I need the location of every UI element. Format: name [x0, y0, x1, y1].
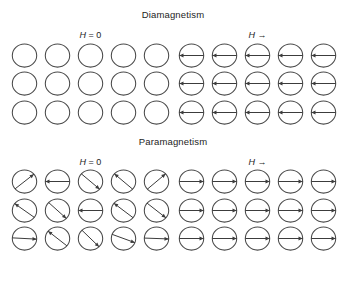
dipole-cell	[308, 42, 339, 69]
dipole-cell	[141, 99, 172, 126]
field-condition-label: H →	[248, 30, 266, 41]
dipole-cell	[308, 197, 339, 224]
dipole-cell	[75, 99, 106, 126]
field-value: = 0	[86, 30, 101, 40]
moment-arrowhead	[332, 180, 336, 184]
dipole-5	[176, 197, 207, 224]
dipole-10	[9, 225, 40, 252]
panel-dia-applied-field: H →	[175, 30, 340, 127]
dipole-11	[209, 225, 240, 252]
orbital-circle	[45, 72, 69, 95]
dipole-cell	[242, 225, 273, 252]
dipole-cell	[141, 225, 172, 252]
dipole-14	[308, 225, 339, 252]
dipole-2	[242, 168, 273, 195]
dipole-cell	[9, 42, 40, 69]
dipole-cell	[209, 168, 240, 195]
dipole-cell	[42, 225, 73, 252]
dipole-4	[308, 168, 339, 195]
dipole-cell	[209, 99, 240, 126]
moment-arrowhead	[15, 203, 20, 207]
field-value: →	[255, 157, 267, 167]
dipole-4	[141, 42, 172, 69]
dipole-cell	[209, 70, 240, 97]
dipole-cell	[275, 197, 306, 224]
dipole-cell	[275, 42, 306, 69]
orbital-circle	[12, 44, 36, 67]
dipole-cell	[9, 225, 40, 252]
panels-row: H = 0H →	[0, 157, 346, 254]
dipole-cell	[141, 168, 172, 195]
dipole-cell	[209, 42, 240, 69]
sections-container: DiamagnetismH = 0H →ParamagnetismH = 0H …	[0, 0, 346, 253]
dipole-1	[42, 42, 73, 69]
dipole-cell	[275, 99, 306, 126]
orbital-circle	[12, 101, 36, 124]
dipole-10	[176, 99, 207, 126]
dipole-cell	[75, 70, 106, 97]
dipole-9	[141, 197, 172, 224]
moment-arrowhead	[278, 82, 282, 86]
moment-arrowhead	[278, 53, 282, 57]
dipole-8	[108, 197, 139, 224]
dipole-cell	[308, 168, 339, 195]
dipole-cell	[242, 168, 273, 195]
moment-arrowhead	[233, 180, 237, 184]
dipole-14	[308, 99, 339, 126]
dipole-0	[176, 168, 207, 195]
dipole-cell	[108, 42, 139, 69]
moment-arrowhead	[299, 208, 303, 212]
dipole-cell	[308, 225, 339, 252]
dipole-7	[75, 197, 106, 224]
dipole-cell	[275, 225, 306, 252]
dipole-6	[209, 197, 240, 224]
dipole-cell	[42, 168, 73, 195]
moment-arrowhead	[233, 237, 237, 241]
dipole-11	[42, 225, 73, 252]
dipole-0	[9, 168, 40, 195]
orbital-circle	[78, 44, 102, 67]
moment-arrowhead	[200, 237, 204, 241]
orbital-circle	[78, 101, 102, 124]
dipole-cell	[9, 168, 40, 195]
dipole-6	[209, 70, 240, 97]
dipole-cell	[141, 42, 172, 69]
dipole-cell	[42, 70, 73, 97]
moment-arrowhead	[278, 110, 282, 114]
moment-arrowhead	[200, 180, 204, 184]
dipole-9	[141, 70, 172, 97]
dipole-3	[108, 168, 139, 195]
moment-arrowhead	[179, 110, 183, 114]
moment-arrowhead	[212, 110, 216, 114]
field-value: = 0	[86, 157, 101, 167]
dipole-14	[141, 99, 172, 126]
moment-arrowhead	[332, 237, 336, 241]
dipole-9	[308, 197, 339, 224]
dipole-9	[308, 70, 339, 97]
dipole-cell	[242, 99, 273, 126]
dipole-3	[108, 42, 139, 69]
dipole-cell	[75, 168, 106, 195]
dipole-12	[75, 225, 106, 252]
moment-arrowhead	[245, 110, 249, 114]
orbital-circle	[111, 101, 135, 124]
dipole-cell	[9, 70, 40, 97]
dipole-cell	[108, 168, 139, 195]
field-condition-label: H →	[248, 157, 266, 168]
orbital-circle	[45, 101, 69, 124]
dipole-grid	[8, 41, 173, 127]
dipole-cell	[209, 225, 240, 252]
orbital-circle	[111, 72, 135, 95]
dipole-cell	[42, 42, 73, 69]
dipole-7	[242, 70, 273, 97]
moment-arrowhead	[212, 82, 216, 86]
moment-arrowhead	[179, 53, 183, 57]
dipole-13	[108, 225, 139, 252]
dipole-12	[242, 99, 273, 126]
orbital-circle	[111, 44, 135, 67]
orbital-circle	[144, 72, 168, 95]
dipole-1	[42, 168, 73, 195]
dipole-2	[75, 42, 106, 69]
moment-arrowhead	[164, 237, 168, 241]
dipole-cell	[176, 42, 207, 69]
